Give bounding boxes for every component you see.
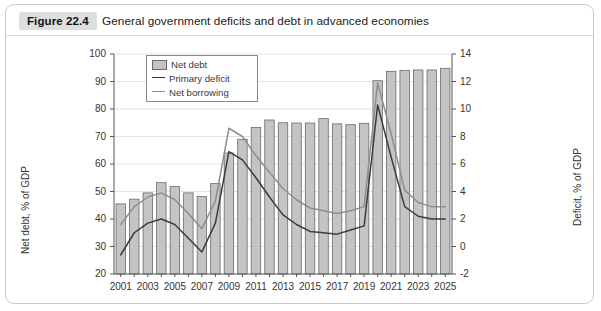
legend-label: Primary deficit: [169, 73, 230, 84]
y-axis-right-tick: -2: [460, 268, 486, 279]
legend-item-net-debt: Net debt: [152, 59, 207, 73]
y-axis-right-tick: 14: [460, 48, 486, 59]
line-swatch-icon: [152, 77, 165, 78]
y-axis-left-tick: 40: [80, 213, 106, 224]
y-axis-left-tick: 50: [80, 186, 106, 197]
figure-caption-title: General government deficits and debt in …: [102, 14, 429, 28]
y-axis-left-tick: 20: [80, 268, 106, 279]
y-axis-left-tick: 90: [80, 76, 106, 87]
line-swatch-icon: [152, 91, 165, 92]
y-axis-right-tick: 2: [460, 213, 486, 224]
figure-caption-bar: Figure 22.4 General government deficits …: [6, 5, 593, 36]
y-axis-left-tick: 70: [80, 131, 106, 142]
figure-number-badge: Figure 22.4: [19, 12, 97, 30]
legend-item-net-borrowing: Net borrowing: [152, 87, 229, 101]
legend-label: Net debt: [171, 59, 207, 70]
y-axis-right-tick: 10: [460, 103, 486, 114]
y-axis-left-tick: 100: [80, 48, 106, 59]
y-axis-left-tick: 80: [80, 103, 106, 114]
bar-swatch-icon: [152, 60, 167, 70]
y-axis-right-tick: 0: [460, 241, 486, 252]
chart-legend: Net debt Primary deficit Net borrowing: [146, 55, 258, 102]
y-axis-right-tick: 6: [460, 158, 486, 169]
figure-card: Figure 22.4 General government deficits …: [5, 4, 594, 304]
y-axis-right-tick: 8: [460, 131, 486, 142]
y-axis-left-tick: 60: [80, 158, 106, 169]
x-axis-tick: 2025: [428, 281, 462, 292]
legend-label: Net borrowing: [169, 87, 229, 98]
chart-plot-area: Net debt, % of GDP Deficit, % of GDP Net…: [6, 36, 593, 304]
y-axis-left-tick: 30: [80, 241, 106, 252]
y-axis-right-tick: 12: [460, 76, 486, 87]
legend-item-primary-deficit: Primary deficit: [152, 73, 230, 87]
y-axis-right-tick: 4: [460, 186, 486, 197]
